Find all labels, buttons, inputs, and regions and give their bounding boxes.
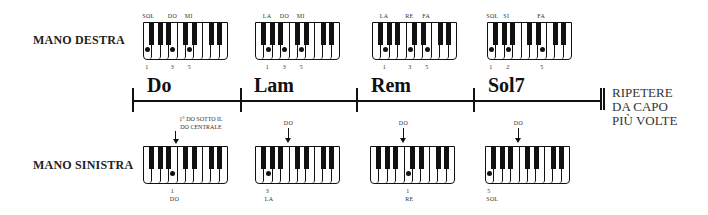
black-key bbox=[329, 146, 334, 169]
finger-number: 5 bbox=[487, 188, 490, 194]
black-key bbox=[534, 146, 539, 169]
black-key bbox=[387, 22, 392, 45]
note-name-label: LA bbox=[380, 13, 389, 19]
black-key bbox=[217, 22, 222, 45]
black-key bbox=[500, 146, 505, 169]
black-key bbox=[444, 146, 449, 169]
pressed-key-dot bbox=[540, 47, 545, 52]
middle-c-marker: DO bbox=[514, 120, 523, 126]
black-key bbox=[329, 22, 334, 45]
black-key bbox=[436, 146, 441, 169]
pressed-key-dot bbox=[406, 171, 411, 176]
bass-note-label: SOL bbox=[486, 196, 498, 202]
right-hand-keyboard-rem bbox=[372, 22, 457, 60]
note-name-label: RE bbox=[405, 13, 413, 19]
black-key bbox=[192, 146, 197, 169]
finger-number: 1 bbox=[489, 64, 492, 70]
black-key bbox=[278, 146, 283, 169]
finger-number: 1 bbox=[171, 188, 174, 194]
pressed-key-dot bbox=[506, 47, 511, 52]
timeline-tick bbox=[356, 88, 358, 112]
note-name-label: LA bbox=[263, 13, 272, 19]
pressed-key-dot bbox=[408, 47, 413, 52]
black-key bbox=[410, 146, 415, 169]
black-key bbox=[183, 22, 188, 45]
middle-c-marker: DO bbox=[284, 120, 293, 126]
black-key bbox=[393, 146, 398, 169]
black-key bbox=[158, 146, 163, 169]
black-key bbox=[446, 22, 451, 45]
black-key bbox=[551, 146, 556, 169]
black-key bbox=[508, 146, 513, 169]
finger-number: 1 bbox=[266, 64, 269, 70]
pressed-key-dot bbox=[282, 47, 287, 52]
middle-c-marker: DO bbox=[399, 120, 408, 126]
black-key bbox=[209, 22, 214, 45]
bass-note-label: RE bbox=[405, 196, 413, 202]
timeline-line bbox=[132, 100, 602, 102]
left-hand-label: MANO SINISTRA bbox=[33, 158, 133, 173]
finger-number: 2 bbox=[506, 64, 509, 70]
repeat-line-1: RIPETERE bbox=[612, 86, 677, 100]
bass-note-label: LA bbox=[265, 196, 274, 202]
black-key bbox=[493, 22, 498, 45]
bass-note-label: DO bbox=[170, 196, 179, 202]
pressed-key-dot bbox=[299, 47, 304, 52]
note-name-label: MI bbox=[185, 13, 193, 19]
finger-number: 1 bbox=[145, 64, 148, 70]
black-key bbox=[525, 146, 530, 169]
black-key bbox=[304, 146, 309, 169]
finger-number: 5 bbox=[540, 64, 543, 70]
left-hand-keyboard-rem bbox=[370, 146, 455, 184]
finger-number: 1 bbox=[406, 188, 409, 194]
left-hand-keyboard-lam bbox=[255, 146, 340, 184]
finger-number: 3 bbox=[266, 188, 269, 194]
note-name-label: FA bbox=[537, 13, 545, 19]
finger-number: 3 bbox=[408, 64, 411, 70]
finger-number: 5 bbox=[300, 64, 303, 70]
black-key bbox=[491, 146, 496, 169]
finger-number: 1 bbox=[383, 64, 386, 70]
finger-number: 3 bbox=[171, 64, 174, 70]
black-key bbox=[502, 22, 507, 45]
black-key bbox=[304, 22, 309, 45]
black-key bbox=[209, 146, 214, 169]
hint-line-1: 1° DO SOTTO IL bbox=[166, 115, 236, 123]
note-name-label: SI bbox=[503, 13, 509, 19]
repeat-barline bbox=[600, 88, 602, 110]
note-name-label: DO bbox=[280, 13, 289, 19]
timeline-tick bbox=[240, 88, 242, 112]
pressed-key-dot bbox=[187, 47, 192, 52]
black-key bbox=[421, 22, 426, 45]
black-key bbox=[278, 22, 283, 45]
pressed-key-dot bbox=[266, 47, 271, 52]
pressed-key-dot bbox=[489, 47, 494, 52]
black-key bbox=[321, 22, 326, 45]
black-key bbox=[419, 146, 424, 169]
repeat-line-3: PIÙ VOLTE bbox=[612, 114, 677, 128]
finger-number: 5 bbox=[425, 64, 428, 70]
black-key bbox=[295, 22, 300, 45]
note-name-label: FA bbox=[422, 13, 430, 19]
black-key bbox=[378, 22, 383, 45]
black-key bbox=[510, 22, 515, 45]
black-key bbox=[217, 146, 222, 169]
pressed-key-dot bbox=[383, 47, 388, 52]
black-key bbox=[149, 146, 154, 169]
black-key bbox=[270, 22, 275, 45]
black-key bbox=[149, 22, 154, 45]
pressed-key-dot bbox=[145, 47, 150, 52]
pressed-key-dot bbox=[425, 47, 430, 52]
black-key bbox=[376, 146, 381, 169]
note-name-label: SOL bbox=[486, 13, 498, 19]
black-key bbox=[385, 146, 390, 169]
black-key bbox=[559, 146, 564, 169]
pressed-key-dot bbox=[170, 171, 175, 176]
black-key bbox=[438, 22, 443, 45]
black-key bbox=[527, 22, 532, 45]
black-key bbox=[261, 146, 266, 169]
hint-line-2: DO CENTRALE bbox=[166, 123, 236, 131]
right-hand-keyboard-lam bbox=[255, 22, 340, 60]
black-key bbox=[561, 22, 566, 45]
note-name-label: SOL bbox=[142, 13, 154, 19]
